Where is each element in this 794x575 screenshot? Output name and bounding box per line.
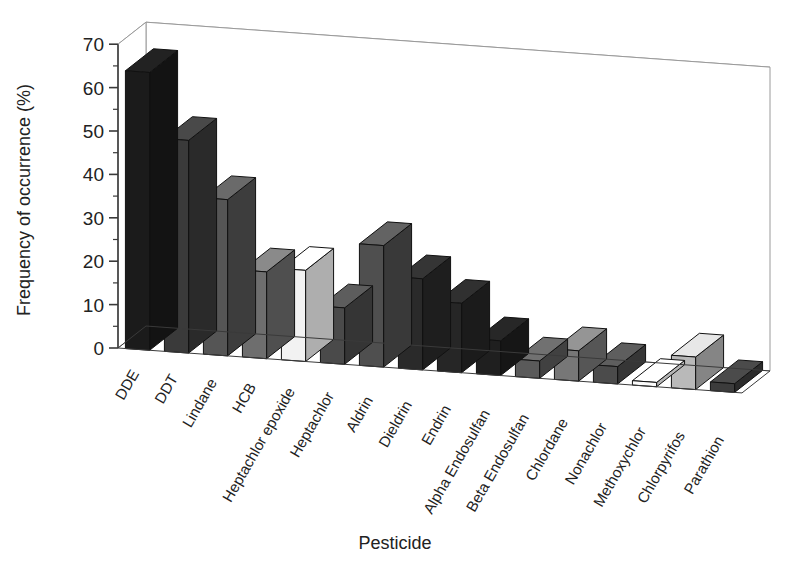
y-tick-label: 30 (83, 208, 104, 229)
y-tick-label: 70 (83, 34, 104, 55)
y-tick-label: 20 (83, 251, 104, 272)
bar-dde (125, 49, 177, 351)
y-tick-label: 0 (93, 338, 104, 359)
x-axis-title: Pesticide (358, 533, 431, 553)
y-axis-title: Frequency of occurrence (%) (14, 84, 34, 316)
y-tick-label: 50 (83, 121, 104, 142)
y-tick-label: 10 (83, 295, 104, 316)
y-tick-label: 40 (83, 164, 104, 185)
y-tick-label: 60 (83, 78, 104, 99)
chart-canvas: 010203040506070 DDEDDTLindaneHCBHeptachl… (0, 0, 794, 575)
pesticide-frequency-chart: 010203040506070 DDEDDTLindaneHCBHeptachl… (0, 0, 794, 575)
